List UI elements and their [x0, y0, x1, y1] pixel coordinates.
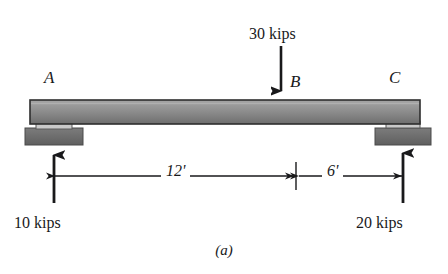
- roller-support-base: [375, 128, 431, 145]
- figure-caption: (a): [0, 243, 448, 258]
- reaction-label-a: 10 kips: [14, 215, 61, 231]
- point-label-b: B: [290, 73, 300, 90]
- applied-load-label: 30 kips: [249, 26, 296, 42]
- point-label-a: A: [44, 69, 54, 86]
- diagram-canvas: [0, 0, 448, 274]
- pin-support-base: [25, 128, 83, 145]
- dimension-label-6ft: 6': [322, 163, 343, 179]
- dimension-label-12ft: 12': [161, 163, 190, 179]
- point-label-c: C: [389, 69, 400, 86]
- beam: [30, 100, 420, 124]
- reaction-label-c: 20 kips: [356, 215, 403, 231]
- beam-free-body-diagram: A B C 30 kips 10 kips 20 kips 12' 6' (a): [0, 0, 448, 274]
